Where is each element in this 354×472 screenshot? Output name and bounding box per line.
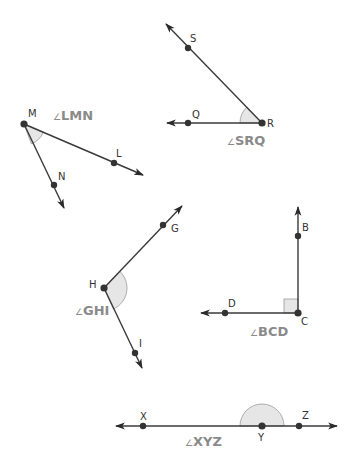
label-n: N: [58, 171, 65, 182]
angle-symbol-icon: ∠: [250, 328, 258, 338]
angle-srq-arc: [240, 107, 262, 123]
angle-label-xyz: XYZ: [193, 434, 222, 449]
angle-symbol-icon: ∠: [185, 438, 193, 448]
label-g: G: [171, 223, 179, 234]
angle-symbol-icon: ∠: [75, 307, 83, 317]
point-r: [258, 119, 265, 126]
angle-ghi: H G I ∠ GHI: [75, 206, 182, 368]
label-z: Z: [302, 410, 309, 421]
label-b: B: [302, 222, 309, 233]
label-r: R: [267, 118, 274, 129]
point-d: [222, 310, 228, 316]
angle-label-srq: SRQ: [235, 133, 265, 148]
label-m: M: [28, 108, 37, 119]
point-y: [258, 422, 265, 429]
angle-lmn: M L N ∠ LMN: [20, 108, 143, 208]
point-g: [160, 222, 166, 228]
angle-srq: R S Q ∠ SRQ: [166, 24, 274, 148]
point-h: [100, 284, 107, 291]
point-m: [20, 120, 27, 127]
ray-hg: [104, 206, 182, 288]
label-l: L: [116, 148, 122, 159]
point-b: [295, 233, 301, 239]
label-y: Y: [257, 432, 265, 443]
label-s: S: [190, 33, 196, 44]
angle-xyz: X Y Z ∠ XYZ: [116, 404, 337, 449]
angle-label-lmn: LMN: [61, 108, 93, 123]
angle-lmn-arc: [24, 124, 43, 144]
angle-label-bcd: BCD: [258, 324, 288, 339]
point-n: [51, 182, 57, 188]
ray-rs: [166, 24, 262, 123]
point-q: [185, 120, 191, 126]
point-i: [132, 350, 138, 356]
label-q: Q: [192, 109, 200, 120]
point-z: [296, 423, 302, 429]
angle-symbol-icon: ∠: [227, 137, 235, 147]
label-d: D: [228, 298, 236, 309]
label-c: C: [301, 316, 308, 327]
point-x: [140, 423, 146, 429]
point-s: [185, 45, 191, 51]
angle-label-ghi: GHI: [83, 303, 109, 318]
label-h: H: [89, 279, 97, 290]
label-x: X: [140, 411, 147, 422]
point-l: [111, 160, 117, 166]
angles-diagram: M L N ∠ LMN R S Q ∠ SRQ H G I ∠ GHI: [0, 0, 354, 472]
ray-mn: [24, 124, 64, 208]
ray-ml: [24, 124, 143, 175]
angle-bcd: B C D ∠ BCD: [201, 207, 309, 339]
label-i: I: [139, 338, 142, 349]
angle-symbol-icon: ∠: [53, 112, 61, 122]
